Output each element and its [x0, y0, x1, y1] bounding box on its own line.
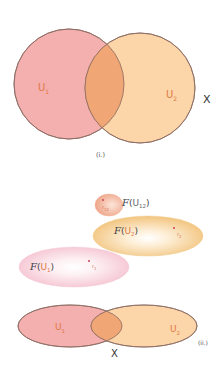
point-r2 [173, 227, 175, 229]
panel-ii-caption: (ii.) [198, 339, 208, 346]
sheaf-diagram: U1 U2 X (i.) r12 F(U12) F(U2) [0, 0, 222, 367]
fiber-u1-label: F(U1) [29, 261, 54, 273]
fiber-u12: r12 F(U12) [95, 194, 150, 216]
fiber-u1: F(U1) r1 [19, 247, 129, 287]
fiber-u12-label: F(U12) [121, 197, 150, 209]
panel-i: U1 U2 X (i.) [14, 29, 211, 159]
base-space-x-label: X [111, 348, 118, 359]
point-r12 [102, 199, 104, 201]
panel-i-caption: (i.) [96, 151, 105, 159]
point-r1 [88, 260, 90, 262]
fiber-u2: F(U2) r2 [93, 216, 203, 256]
panel-ii: r12 F(U12) F(U2) r2 F(U1) r1 [18, 194, 208, 359]
fiber-u2-label: F(U2) [113, 225, 138, 237]
base-space: U1 U2 X [18, 305, 197, 359]
space-x-label: X [203, 93, 211, 106]
